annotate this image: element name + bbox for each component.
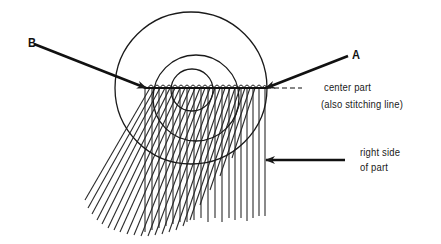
arrow-b bbox=[34, 44, 146, 88]
right-side-label: right side bbox=[360, 145, 400, 160]
inner-circle bbox=[171, 69, 213, 111]
center-part-sublabel: (also stitching line) bbox=[321, 97, 403, 112]
center-part-label: center part bbox=[324, 80, 371, 95]
label-b: B bbox=[28, 36, 36, 50]
label-a: A bbox=[352, 48, 360, 62]
part-diagram bbox=[0, 0, 441, 244]
right-side-sublabel: of part bbox=[360, 160, 388, 175]
